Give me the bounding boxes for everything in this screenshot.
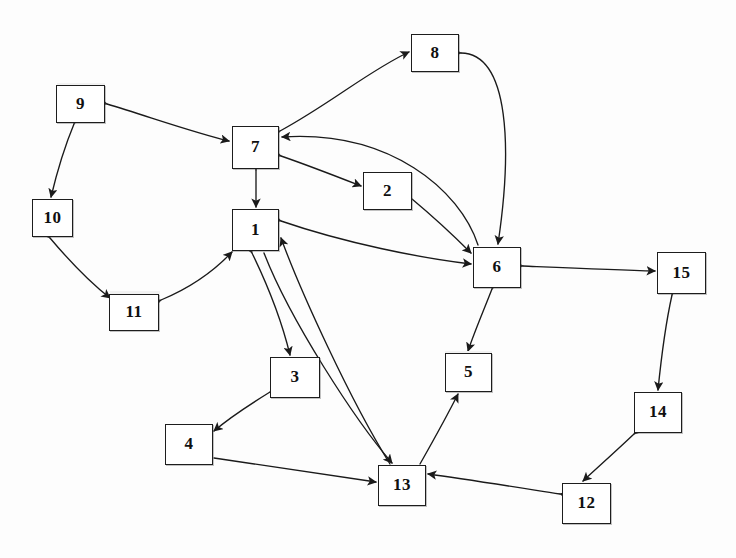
edge-14-to-12: [583, 434, 634, 481]
node-4[interactable]: 4: [165, 424, 213, 465]
node-15[interactable]: 15: [657, 252, 706, 294]
edge-6-to-5: [468, 289, 492, 351]
node-label-12: 12: [578, 494, 596, 511]
edge-9-to-10: [51, 124, 74, 197]
node-label-3: 3: [291, 368, 300, 385]
node-13[interactable]: 13: [378, 465, 426, 506]
edge-10-to-11: [50, 238, 110, 298]
edge-9-to-7: [107, 104, 229, 141]
edge-layer: [0, 0, 736, 558]
node-9[interactable]: 9: [56, 85, 105, 123]
edge-1-to-6: [281, 221, 471, 264]
node-1[interactable]: 1: [232, 209, 279, 251]
node-label-14: 14: [649, 403, 667, 420]
edge-13-to-1: [281, 238, 390, 464]
node-label-9: 9: [76, 95, 85, 112]
node-10[interactable]: 10: [32, 199, 73, 237]
edge-2-to-6: [412, 199, 471, 253]
node-14[interactable]: 14: [634, 392, 682, 433]
node-label-4: 4: [185, 435, 194, 452]
edge-3-to-4: [214, 392, 270, 431]
node-2[interactable]: 2: [363, 172, 412, 210]
edge-13-to-5: [420, 394, 458, 464]
node-3[interactable]: 3: [270, 357, 320, 398]
node-label-2: 2: [383, 182, 392, 199]
node-5[interactable]: 5: [445, 353, 492, 392]
node-label-1: 1: [251, 221, 260, 238]
node-label-11: 11: [125, 303, 142, 320]
node-label-10: 10: [44, 209, 62, 226]
node-8[interactable]: 8: [411, 34, 459, 72]
node-label-13: 13: [393, 476, 411, 493]
edge-8-to-6: [461, 53, 506, 244]
node-label-7: 7: [251, 138, 260, 155]
edge-11-to-1: [161, 252, 232, 300]
node-label-6: 6: [493, 258, 502, 275]
edge-12-to-13: [428, 474, 560, 494]
node-label-8: 8: [431, 44, 440, 61]
node-12[interactable]: 12: [562, 483, 611, 524]
edge-7-to-2: [281, 156, 361, 186]
edge-4-to-13: [214, 458, 376, 482]
node-11[interactable]: 11: [109, 294, 159, 331]
node-label-5: 5: [464, 363, 473, 380]
edge-7-to-8: [280, 52, 409, 131]
diagram-canvas: 123456789101112131415: [0, 0, 736, 558]
edge-6-to-15: [523, 266, 655, 271]
node-6[interactable]: 6: [473, 247, 521, 288]
node-7[interactable]: 7: [232, 126, 279, 169]
node-label-15: 15: [673, 264, 691, 281]
edge-15-to-14: [658, 295, 672, 390]
